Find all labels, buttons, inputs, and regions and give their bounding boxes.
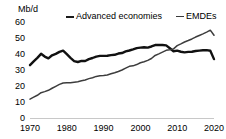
series-line-emdes (30, 30, 214, 99)
series-line-advanced-economies (30, 45, 214, 65)
oil-demand-line-chart: Mb/d Advanced economies EMDEs 6050403020… (0, 0, 226, 139)
plot-area (0, 0, 226, 139)
